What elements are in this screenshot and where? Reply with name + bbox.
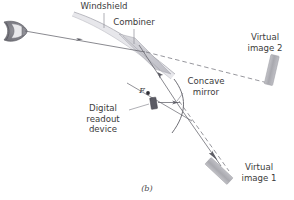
label-digital-readout-device: Digital readout device: [76, 103, 130, 135]
label-windshield: Windshield: [72, 1, 136, 12]
label-concave-mirror: Concave mirror: [178, 76, 234, 97]
label-virtual-image-1: Virtual image 1: [233, 162, 285, 183]
virtual-image-2-block: [264, 54, 279, 85]
label-virtual-image-2: Virtual image 2: [238, 32, 292, 53]
hud-optics-figure: Windshield Combiner Virtual image 2 Conc…: [0, 0, 294, 200]
eye-icon: [4, 21, 27, 41]
ray-mirror-to-virtual-image-1: [179, 106, 221, 166]
digital-readout-leader-line: [129, 104, 149, 110]
ray-device-to-mirror: [158, 100, 180, 104]
label-combiner: Combiner: [105, 17, 163, 28]
figure-caption: (b): [0, 183, 294, 193]
digital-readout-device: [150, 97, 158, 109]
ray-dashed-to-virtual-image-1: [179, 101, 229, 171]
label-focal-point-f: F: [136, 86, 148, 97]
